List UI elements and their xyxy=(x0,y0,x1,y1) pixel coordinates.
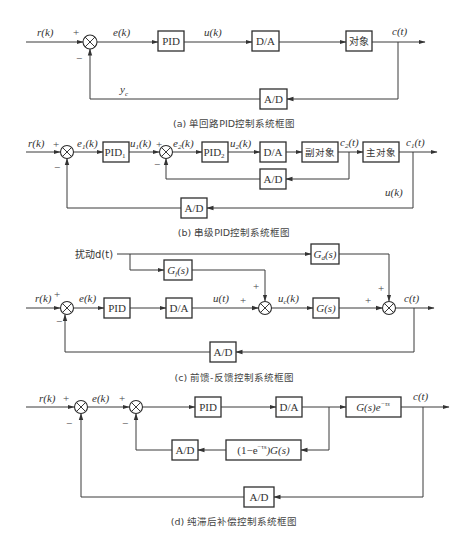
signal-r-k: r(k) xyxy=(28,137,45,150)
block-primary-plant: 主对象 xyxy=(363,142,399,162)
diagram-a-single-loop-pid: r(k) + − e(k) PID u(k) D/A 对象 c(t) A/D xyxy=(26,25,425,129)
signal-u-t: u(t) xyxy=(213,292,229,305)
diagram-c-feedforward-feedback: 扰动d(t) Gd(s) Gf(s) r(k) + − e(k) PID xyxy=(26,244,434,383)
svg-text:A/D: A/D xyxy=(250,491,269,503)
svg-text:D/A: D/A xyxy=(280,401,299,413)
block-da: D/A xyxy=(260,142,286,162)
signal-c-t: c(t) xyxy=(413,390,429,403)
svg-text:对象: 对象 xyxy=(349,35,369,47)
plus-sign: + xyxy=(54,288,60,300)
diagram-b-cascade-pid: r(k) + − e1(k) PID1 u1(k) + − e2(k) PID2… xyxy=(26,136,437,238)
svg-text:PID: PID xyxy=(162,35,180,47)
block-smith-compensator: (1−e−τs)G(s) xyxy=(226,440,301,460)
control-diagrams-canvas: r(k) + − e(k) PID u(k) D/A 对象 c(t) A/D xyxy=(0,0,469,546)
caption-c: (c) 前馈-反馈控制系统框图 xyxy=(174,372,293,383)
signal-r-k: r(k) xyxy=(35,292,52,305)
plus-sign: + xyxy=(53,138,59,150)
svg-text:A/D: A/D xyxy=(214,346,233,358)
signal-r-k: r(k) xyxy=(39,392,56,405)
caption-a: (a) 单回路PID控制系统框图 xyxy=(173,118,295,129)
block-gd: Gd(s) xyxy=(311,244,339,264)
svg-text:A/D: A/D xyxy=(264,93,283,105)
block-pid: PID xyxy=(195,397,221,417)
svg-text:PID: PID xyxy=(108,302,126,314)
minus-sign: − xyxy=(76,52,82,64)
signal-e-k: e(k) xyxy=(79,292,96,305)
summing-junction-icon xyxy=(259,302,272,315)
signal-e-k: e(k) xyxy=(113,26,130,39)
signal-e-k: e(k) xyxy=(92,392,109,405)
block-pid2: PID2 xyxy=(202,142,228,162)
svg-text:A/D: A/D xyxy=(185,202,204,214)
caption-b: (b) 串级PID控制系统框图 xyxy=(178,227,290,238)
block-ad: A/D xyxy=(210,342,236,362)
block-plant: 对象 xyxy=(346,31,372,51)
svg-text:D/A: D/A xyxy=(170,302,189,314)
summing-junction-icon xyxy=(61,302,74,315)
block-gf: Gf(s) xyxy=(164,260,192,280)
summing-junction-icon xyxy=(75,401,88,414)
block-secondary-plant: 副对象 xyxy=(302,142,338,162)
signal-e1-k: e1(k) xyxy=(77,137,98,151)
minus-sign: − xyxy=(66,417,72,429)
svg-text:A/D: A/D xyxy=(264,173,283,185)
signal-u-k-outer: u(k) xyxy=(385,186,403,199)
block-da: D/A xyxy=(252,31,279,51)
summing-junction-icon xyxy=(383,302,396,315)
svg-text:G(s): G(s) xyxy=(316,302,336,315)
signal-u2-k: u2(k) xyxy=(230,137,252,151)
minus-sign: − xyxy=(154,158,160,170)
minus-sign: − xyxy=(122,417,128,429)
svg-text:主对象: 主对象 xyxy=(366,147,396,158)
block-ad-outer: A/D xyxy=(244,487,274,507)
plus-sign: + xyxy=(73,26,79,38)
block-gs: G(s) xyxy=(313,298,339,318)
plus-sign: + xyxy=(119,392,125,404)
signal-uc-k: uc(k) xyxy=(278,292,299,306)
block-ad: A/D xyxy=(260,89,287,109)
signal-c-t: c(t) xyxy=(392,25,408,38)
caption-d: (d) 纯滞后补偿控制系统框图 xyxy=(171,516,297,527)
minus-sign: − xyxy=(54,161,60,173)
diagram-d-dead-time-compensation: r(k) + − e(k) + − PID D/A G(s)e−τs xyxy=(26,390,449,527)
signal-y-c: yc xyxy=(119,83,129,98)
block-da: D/A xyxy=(166,298,192,318)
svg-text:Gd(s): Gd(s) xyxy=(313,248,336,262)
signal-disturbance: 扰动d(t) xyxy=(75,248,113,260)
signal-u-k: u(k) xyxy=(204,26,222,39)
signal-c-t: c(t) xyxy=(404,292,420,305)
signal-r-k: r(k) xyxy=(37,26,54,39)
block-pid: PID xyxy=(104,298,130,318)
signal-e2-k: e2(k) xyxy=(173,137,194,151)
summing-junction-icon xyxy=(160,146,173,159)
svg-text:A/D: A/D xyxy=(176,444,195,456)
signal-c2-t: c2(t) xyxy=(340,136,359,150)
block-ad-outer: A/D xyxy=(181,198,207,218)
svg-text:Gf(s): Gf(s) xyxy=(167,264,189,278)
svg-text:PID: PID xyxy=(199,401,217,413)
block-ad-inner: A/D xyxy=(172,440,198,460)
block-pid: PID xyxy=(158,31,184,51)
plus-sign: + xyxy=(240,294,246,306)
plus-sign: + xyxy=(378,282,384,294)
block-da: D/A xyxy=(276,397,302,417)
summing-junction-icon xyxy=(83,35,97,49)
block-plant-with-delay: G(s)e−τs xyxy=(346,397,401,417)
summing-junction-icon xyxy=(61,146,74,159)
plus-sign: + xyxy=(253,280,259,292)
svg-text:D/A: D/A xyxy=(264,146,283,158)
svg-text:D/A: D/A xyxy=(256,35,275,47)
minus-sign: − xyxy=(56,315,62,327)
plus-sign: + xyxy=(63,392,69,404)
signal-c1-t: c1(t) xyxy=(406,136,425,150)
plus-sign: + xyxy=(365,294,371,306)
signal-u1-k: u1(k) xyxy=(130,137,152,151)
block-pid1: PID1 xyxy=(103,142,129,162)
summing-junction-icon xyxy=(130,401,143,414)
svg-text:副对象: 副对象 xyxy=(305,147,335,158)
block-ad-inner: A/D xyxy=(260,169,286,189)
